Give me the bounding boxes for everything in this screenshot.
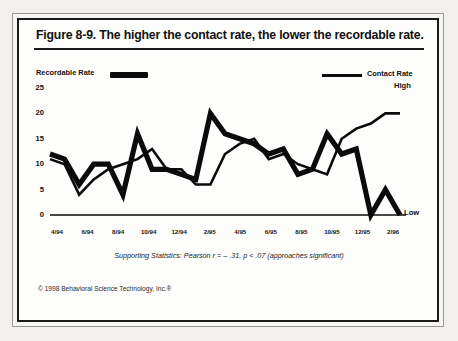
- y-axis-tick-label: 10: [26, 159, 44, 168]
- y-axis-tick-label: 5: [26, 185, 44, 194]
- y-axis-tick-label: 25: [26, 83, 44, 92]
- x-axis-tick-label: 10/95: [317, 228, 347, 235]
- x-axis-tick-label: 4/95: [225, 228, 255, 235]
- x-axis-tick-label: 8/94: [103, 228, 133, 235]
- x-axis-tick-label: 6/95: [256, 228, 286, 235]
- x-axis-tick-label: 4/94: [42, 228, 72, 235]
- x-axis-tick-label: 10/94: [134, 228, 164, 235]
- supporting-statistics-note: Supporting Statistics: Pearson r = – .31…: [0, 251, 458, 260]
- x-axis-tick-label: 6/94: [73, 228, 103, 235]
- y-axis-tick-label: 20: [26, 108, 44, 117]
- x-axis-tick-label: 12/95: [347, 228, 377, 235]
- series-line-recordable-rate: [50, 113, 400, 215]
- x-axis-tick-label: 2/96: [378, 228, 408, 235]
- figure-root: Figure 8-9. The higher the contact rate,…: [0, 0, 458, 341]
- y-axis-tick-label: 0: [26, 210, 44, 219]
- x-axis-tick-label: 2/95: [195, 228, 225, 235]
- y-axis-tick-label: 15: [26, 134, 44, 143]
- x-axis-tick-label: 8/95: [286, 228, 316, 235]
- x-axis-tick-label: 12/94: [164, 228, 194, 235]
- copyright-notice: © 1998 Behavioral Science Technology, In…: [38, 285, 171, 292]
